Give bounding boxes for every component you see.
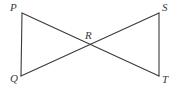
geometry-figure: P S R Q T: [0, 0, 176, 90]
vertex-label-p: P: [10, 2, 17, 13]
vertex-label-s: S: [162, 2, 168, 13]
vertex-label-t: T: [162, 74, 168, 85]
diagram-canvas: [0, 0, 176, 90]
vertex-label-r: R: [85, 30, 92, 41]
vertex-label-q: Q: [10, 73, 18, 84]
segment-PQ: [21, 13, 22, 76]
